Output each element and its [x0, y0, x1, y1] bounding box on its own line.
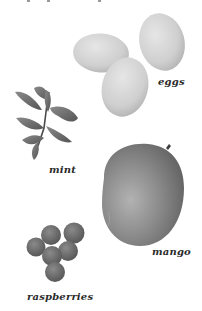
label-raspberries: raspberries [27, 292, 93, 302]
label-eggs: eggs [158, 77, 185, 87]
mint-sprig-icon [15, 87, 78, 161]
ingredient-artwork [0, 0, 202, 311]
label-mango: mango [152, 247, 191, 257]
label-mint: mint [49, 165, 76, 175]
raspberries-icon [27, 223, 85, 283]
eggs-icon [72, 8, 191, 121]
mango-icon [102, 144, 184, 246]
ingredient-illustration-page: eggs mint mango raspberries [0, 0, 202, 311]
